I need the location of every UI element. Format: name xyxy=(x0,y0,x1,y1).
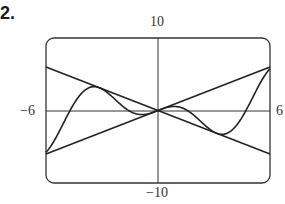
graph xyxy=(0,0,285,204)
